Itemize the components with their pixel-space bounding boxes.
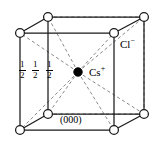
- edge-depth-top-right: [114, 17, 144, 33]
- fraction-denominator: 2: [19, 71, 26, 81]
- atom-cesium-body-center: [74, 68, 82, 76]
- diagonal-to-back-bottom-right: [78, 72, 144, 114]
- atom-chloride-back-bottom-right: [140, 110, 149, 119]
- atom-chloride-back-bottom-left: [44, 110, 53, 119]
- atom-chloride-back-top-right: [140, 13, 149, 22]
- label-chloride-symbol: Cl: [120, 38, 130, 50]
- fraction-numerator: 1: [19, 60, 26, 71]
- fraction-denominator: 2: [46, 71, 53, 81]
- label-cesium-ion: Cs+: [89, 65, 105, 78]
- label-cesium-charge: +: [101, 64, 106, 73]
- fraction-one-half-x: 1 2: [19, 60, 26, 81]
- fraction-numerator: 1: [32, 60, 39, 71]
- fraction-numerator: 1: [46, 60, 53, 71]
- atom-chloride-front-top-right: [110, 29, 119, 38]
- atom-chloride-back-top-left: [44, 13, 53, 22]
- fraction-denominator: 2: [32, 71, 39, 81]
- diagonal-to-front-bottom-right: [78, 72, 114, 130]
- atom-chloride-front-bottom-right: [110, 126, 119, 135]
- label-chloride-charge: −: [130, 36, 135, 45]
- label-origin-coordinates: (000): [60, 115, 82, 125]
- edge-depth-bottom-right: [114, 114, 144, 130]
- diagonal-to-back-bottom-left: [48, 72, 78, 114]
- diagonal-to-back-top-left: [48, 17, 78, 72]
- atom-chloride-front-bottom-left: [16, 126, 25, 135]
- label-chloride-ion: Cl−: [120, 37, 135, 50]
- fraction-one-half-y: 1 2: [32, 60, 39, 81]
- fraction-one-half-z: 1 2: [46, 60, 53, 81]
- label-cesium-symbol: Cs: [89, 66, 101, 78]
- cscl-unit-cell-figure: Cl− Cs+ (000) 1 2 1 2 1 2: [0, 0, 159, 146]
- atom-chloride-front-top-left: [16, 29, 25, 38]
